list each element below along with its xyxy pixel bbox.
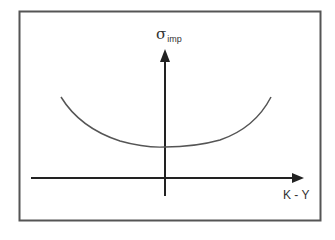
y-axis-label: σimp: [156, 25, 182, 44]
y-axis-subscript: imp: [167, 34, 182, 44]
x-axis-arrowhead-icon: [292, 173, 304, 183]
y-axis-arrowhead-icon: [160, 49, 170, 62]
sigma-symbol: σ: [156, 25, 166, 43]
x-axis-label: K - Y: [283, 188, 309, 202]
